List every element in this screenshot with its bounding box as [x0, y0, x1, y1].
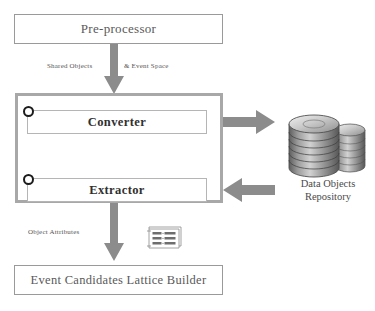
node-preprocessor: Pre-processor — [14, 14, 223, 44]
edge-label-shared-objects: Shared Objects — [47, 62, 92, 70]
converter-port-icon — [23, 106, 34, 117]
node-converter-label: Converter — [88, 115, 146, 130]
node-extractor-label: Extractor — [89, 183, 145, 198]
repository-label-line2: Repository — [283, 190, 373, 203]
repository-caption: Data Objects Repository — [283, 177, 373, 203]
node-preprocessor-label: Pre-processor — [81, 21, 156, 37]
edge-label-event-space: & Event Space — [124, 62, 169, 70]
arrow-preprocessor-to-container — [104, 44, 124, 94]
arrow-converter-to-repository — [223, 110, 275, 134]
attribute-list-icon — [146, 226, 182, 251]
arrow-repository-to-extractor — [223, 178, 275, 202]
node-lattice-builder: Event Candidates Lattice Builder — [14, 265, 223, 295]
diagram-canvas: Pre-processor Shared Objects & Event Spa… — [0, 0, 375, 311]
node-converter: Converter — [27, 110, 207, 134]
node-extractor: Extractor — [27, 178, 207, 202]
edge-label-object-attributes: Object Attributes — [28, 228, 79, 236]
node-lattice-builder-label: Event Candidates Lattice Builder — [31, 273, 207, 288]
repository-label-line1: Data Objects — [283, 177, 373, 190]
arrow-extractor-to-lattice-builder — [104, 203, 124, 261]
extractor-port-icon — [23, 174, 34, 185]
